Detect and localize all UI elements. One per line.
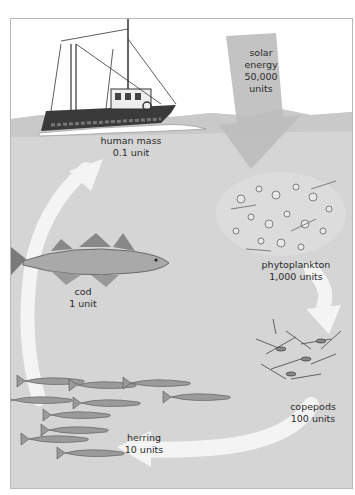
- solar-energy-label: solar energy 50,000 units: [235, 47, 287, 95]
- cod-label: cod 1 unit: [63, 286, 103, 310]
- copepods-label: copepods 100 units: [283, 401, 343, 425]
- phytoplankton-label: phytoplankton 1,000 units: [251, 259, 341, 283]
- human-mass-label: human mass 0.1 unit: [91, 135, 171, 159]
- herring-label: herring 10 units: [119, 432, 169, 456]
- diagram-frame: solar energy 50,000 units human mass 0.1…: [10, 18, 353, 489]
- phytoplankton-icon: [216, 172, 346, 256]
